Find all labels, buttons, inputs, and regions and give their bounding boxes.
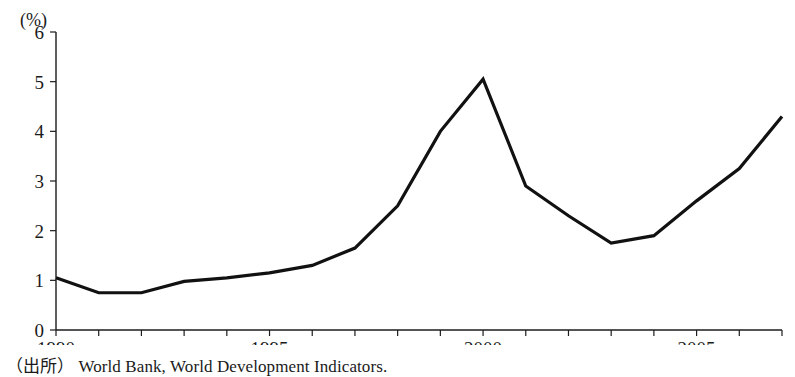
x-tick-label-2005: 2005 <box>678 338 716 345</box>
source-note: （出所）World Bank, World Development Indica… <box>6 352 387 377</box>
x-tick-label-2000: 2000 <box>464 338 502 345</box>
y-tick-label-1: 1 <box>35 270 45 291</box>
y-axis-ticks <box>50 32 56 330</box>
y-tick-label-4: 4 <box>35 121 45 142</box>
source-note-prefix: （出所） <box>6 357 74 376</box>
data-series-line <box>56 79 782 293</box>
x-axis-tick-labels: 1990199520002005 <box>37 338 716 345</box>
x-axis-group: 1990199520002005 <box>37 330 782 345</box>
y-axis-group: 0123456 <box>35 22 57 341</box>
x-tick-label-1995: 1995 <box>251 338 289 345</box>
x-axis-ticks <box>56 330 782 336</box>
figure-container: (%) 0123456 1990199520002005 （出所）World B… <box>0 0 795 377</box>
y-tick-label-3: 3 <box>35 171 45 192</box>
y-tick-label-6: 6 <box>35 22 45 43</box>
y-tick-label-2: 2 <box>35 221 45 242</box>
y-tick-label-5: 5 <box>35 72 45 93</box>
y-axis-tick-labels: 0123456 <box>35 22 45 341</box>
line-chart-svg: (%) 0123456 1990199520002005 <box>0 0 795 345</box>
x-tick-label-1990: 1990 <box>37 338 75 345</box>
source-note-text: World Bank, World Development Indicators… <box>78 357 387 376</box>
chart-plot-area: (%) 0123456 1990199520002005 <box>0 0 795 345</box>
